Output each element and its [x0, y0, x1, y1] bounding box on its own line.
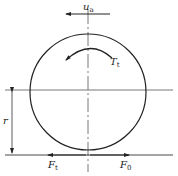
- radius-label: r: [3, 115, 9, 126]
- wheel-diagram: ua Tt r Ft F0: [0, 0, 178, 176]
- rolling-force-label: F0: [119, 159, 131, 172]
- torque-arc-arrow: [66, 48, 112, 60]
- tractive-force-label: Ft: [47, 159, 58, 172]
- torque-label: Tt: [110, 56, 120, 69]
